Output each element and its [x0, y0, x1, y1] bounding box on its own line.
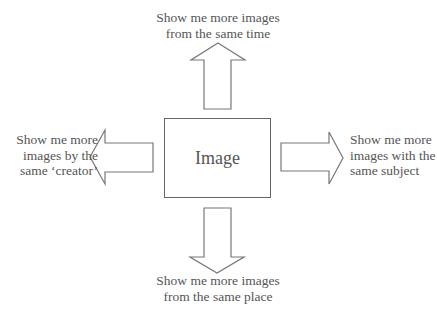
label-line: from the same place	[140, 289, 296, 305]
label-line: images with the	[350, 148, 437, 164]
label-line: Show me more images	[140, 273, 296, 289]
label-same-time: Show me more images from the same time	[140, 10, 296, 41]
label-line: images by the	[0, 148, 98, 164]
image-box: Image	[164, 118, 271, 198]
arrow-right-icon	[281, 132, 343, 184]
label-line: Show me more	[0, 132, 98, 148]
label-line: Show me more images	[140, 10, 296, 26]
label-line: from the same time	[140, 26, 296, 42]
image-label: Image	[195, 148, 240, 169]
label-same-subject: Show me more images with the same subjec…	[350, 132, 437, 179]
arrow-down-icon	[190, 208, 244, 273]
label-line: same subject	[350, 163, 437, 179]
arrow-left-icon	[90, 130, 153, 184]
label-same-creator: Show me more images by the same ‘creator…	[0, 132, 98, 179]
label-line: same ‘creator’	[0, 163, 98, 179]
arrow-up-icon	[191, 43, 245, 109]
label-line: Show me more	[350, 132, 437, 148]
label-same-place: Show me more images from the same place	[140, 273, 296, 304]
navigation-diagram: Image Show me more images from the same …	[0, 0, 437, 315]
